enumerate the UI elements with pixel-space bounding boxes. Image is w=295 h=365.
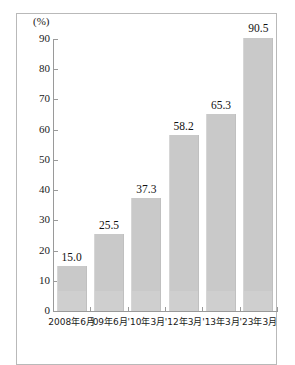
- x-axis-tick: [277, 307, 278, 312]
- y-axis-tick-label: 20: [26, 245, 50, 256]
- y-axis-tick-label: 10: [26, 275, 50, 286]
- bar-base-band: [132, 291, 160, 311]
- bar-value-label: 65.3: [198, 99, 244, 111]
- bar: [131, 198, 161, 311]
- y-axis-tick-label: 50: [26, 154, 50, 165]
- bar-value-label: 90.5: [235, 22, 281, 34]
- bar: [57, 266, 87, 311]
- bar-base-band: [95, 291, 123, 311]
- y-axis-tick-label: 60: [26, 124, 50, 135]
- bar-value-label: 37.3: [123, 183, 169, 195]
- bar-base-band: [244, 291, 272, 311]
- bar-value-label: 25.5: [86, 219, 132, 231]
- bar-base-band: [170, 291, 198, 311]
- x-axis-category-label: '23年3月: [234, 317, 283, 328]
- y-axis-tick-label: 0: [26, 305, 50, 316]
- bar-base-band: [58, 291, 86, 311]
- y-axis-tick-label: 80: [26, 63, 50, 74]
- bar: [206, 114, 236, 311]
- bar: [243, 38, 273, 312]
- y-axis-unit-label: (%): [33, 15, 50, 28]
- y-axis-tick-label: 90: [26, 33, 50, 44]
- bar: [94, 234, 124, 311]
- bar-value-label: 15.0: [49, 251, 95, 263]
- bar-value-label: 58.2: [161, 120, 207, 132]
- y-axis-tick: [54, 311, 58, 312]
- y-axis-tick-label: 70: [26, 93, 50, 104]
- y-axis-tick-label: 40: [26, 184, 50, 195]
- bar-base-band: [207, 291, 235, 311]
- y-axis-tick-label: 30: [26, 214, 50, 225]
- plot-area: [53, 39, 277, 311]
- bar: [169, 135, 199, 311]
